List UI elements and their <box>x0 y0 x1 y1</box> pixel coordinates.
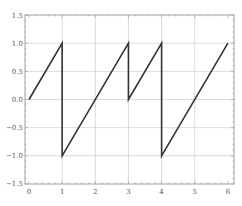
y-tick-label: −1.0 <box>6 152 23 160</box>
grid <box>25 15 234 184</box>
x-tick-label: 3 <box>126 188 130 196</box>
x-tick-label: 5 <box>193 188 197 196</box>
chart: 01234561.51.00.50.0−0.5−1.0−1.5 <box>0 0 242 206</box>
y-tick-label: 0.5 <box>12 68 23 76</box>
x-tick-label: 4 <box>159 188 164 196</box>
x-tick-label: 0 <box>27 188 31 196</box>
tick-labels: 01234561.51.00.50.0−0.5−1.0−1.5 <box>6 12 231 196</box>
x-tick-label: 1 <box>60 188 64 196</box>
x-tick-label: 2 <box>93 188 97 196</box>
y-tick-label: −0.5 <box>6 124 23 132</box>
y-tick-label: 1.5 <box>12 12 23 20</box>
y-tick-label: 0.0 <box>12 96 23 104</box>
y-tick-label: 1.0 <box>12 40 23 48</box>
x-tick-label: 6 <box>226 188 231 196</box>
y-tick-label: −1.5 <box>6 180 23 188</box>
